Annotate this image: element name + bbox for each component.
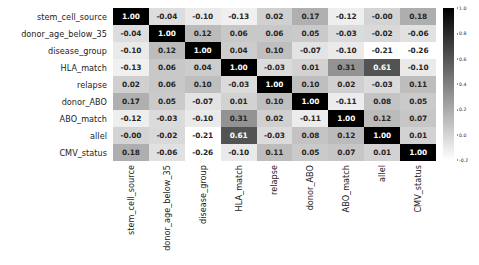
- heatmap-cell: 0.10: [185, 76, 221, 93]
- heatmap-cell: -0.21: [364, 42, 400, 59]
- heatmap-cell: 0.12: [328, 127, 364, 144]
- y-tick-label: CMV_status: [0, 144, 112, 161]
- heatmap-cell: -0.02: [149, 127, 185, 144]
- heatmap-cell: 0.61: [221, 127, 257, 144]
- x-tick-label-slot: disease_group: [185, 161, 221, 265]
- heatmap-cell: -0.11: [328, 93, 364, 110]
- heatmap-cell: 1.00: [292, 93, 328, 110]
- heatmap-cell: 0.01: [400, 127, 436, 144]
- x-tick-label-slot: stem_cell_source: [113, 161, 149, 265]
- x-tick-label: relapse: [269, 165, 279, 195]
- heatmap-cell: 0.05: [292, 25, 328, 42]
- heatmap-cell: 1.00: [364, 127, 400, 144]
- colorbar-tick: -0.2: [454, 158, 468, 163]
- colorbar-tick-text: 0.6: [459, 56, 466, 61]
- heatmap-cell: -0.13: [113, 59, 149, 76]
- x-tick-label: allel: [377, 165, 387, 182]
- heatmap-cell: 0.04: [221, 42, 257, 59]
- colorbar-tick: 0.2: [454, 107, 466, 112]
- heatmap-cell: 0.12: [149, 42, 185, 59]
- heatmap-cell: 0.06: [221, 25, 257, 42]
- heatmap-cell: 0.18: [113, 144, 149, 161]
- tick-mark-icon: [457, 84, 459, 85]
- colorbar-tick: 0.4: [454, 82, 466, 87]
- colorbar-tick-text: 0.8: [459, 31, 466, 36]
- heatmap-cell: 0.06: [257, 25, 293, 42]
- heatmap-cell: 0.17: [292, 8, 328, 25]
- heatmap-cell: 0.08: [292, 127, 328, 144]
- tick-mark-icon: [457, 109, 459, 110]
- y-axis-tick-labels: stem_cell_sourcedonor_age_below_35diseas…: [0, 8, 112, 161]
- colorbar-tick-text: -0.2: [459, 158, 468, 163]
- heatmap-cell: -0.03: [364, 76, 400, 93]
- heatmap-cell: -0.26: [400, 42, 436, 59]
- heatmap-cell: 1.00: [328, 110, 364, 127]
- colorbar: 1.00.80.60.40.20.0-0.2: [443, 8, 454, 160]
- heatmap-cell: 0.31: [221, 110, 257, 127]
- heatmap-cell: 0.02: [257, 8, 293, 25]
- tick-mark-icon: [457, 33, 459, 34]
- heatmap-cell: 0.08: [364, 93, 400, 110]
- y-tick-label: relapse: [0, 76, 112, 93]
- correlation-heatmap-figure: stem_cell_sourcedonor_age_below_35diseas…: [0, 0, 479, 265]
- heatmap-cell: -0.10: [328, 42, 364, 59]
- heatmap-cell: -0.03: [257, 59, 293, 76]
- heatmap-cell: -0.10: [185, 8, 221, 25]
- colorbar-tick: 0.0: [454, 132, 466, 137]
- x-tick-label-slot: donor_age_below_35: [149, 161, 185, 265]
- x-tick-label-slot: HLA_match: [221, 161, 257, 265]
- heatmap-cell: -0.07: [292, 42, 328, 59]
- heatmap-cell: 1.00: [221, 59, 257, 76]
- x-tick-label: CMV_status: [413, 165, 423, 213]
- colorbar-tick: 1.0: [454, 6, 466, 11]
- heatmap-cell: 0.11: [257, 144, 293, 161]
- heatmap-cell: 0.01: [364, 144, 400, 161]
- heatmap-cell: -0.12: [328, 8, 364, 25]
- heatmap-cell: -0.02: [364, 25, 400, 42]
- heatmap-cell: -0.07: [185, 93, 221, 110]
- heatmap-cell: 0.02: [113, 76, 149, 93]
- heatmap-cell: 0.05: [149, 93, 185, 110]
- heatmap-cell: 1.00: [400, 144, 436, 161]
- colorbar-gradient: [443, 8, 454, 160]
- heatmap-cell: -0.04: [149, 8, 185, 25]
- x-tick-label: stem_cell_source: [126, 165, 136, 235]
- x-tick-label-slot: relapse: [257, 161, 293, 265]
- tick-mark-icon: [457, 160, 459, 161]
- heatmap-cell: 0.04: [185, 59, 221, 76]
- heatmap-cell: -0.03: [149, 110, 185, 127]
- x-tick-label-slot: donor_ABO: [292, 161, 328, 265]
- heatmap-cell: -0.00: [364, 8, 400, 25]
- heatmap-cell: 0.02: [257, 110, 293, 127]
- y-tick-label: stem_cell_source: [0, 8, 112, 25]
- heatmap-cell: 1.00: [185, 42, 221, 59]
- heatmap-cell: 1.00: [257, 76, 293, 93]
- x-axis-tick-labels: stem_cell_sourcedonor_age_below_35diseas…: [113, 161, 436, 265]
- heatmap-cell: -0.04: [113, 25, 149, 42]
- heatmap-cell: -0.26: [185, 144, 221, 161]
- y-tick-label: HLA_match: [0, 59, 112, 76]
- heatmap-cell: -0.00: [113, 127, 149, 144]
- heatmap-cell: 0.01: [221, 93, 257, 110]
- colorbar-tick-text: 0.0: [459, 132, 466, 137]
- heatmap-cell: 0.06: [149, 76, 185, 93]
- heatmap-cell: 0.61: [364, 59, 400, 76]
- heatmap-cell: 0.12: [185, 25, 221, 42]
- heatmap-cell: -0.03: [221, 76, 257, 93]
- x-tick-label: donor_age_below_35: [162, 165, 172, 251]
- x-tick-label: donor_ABO: [305, 165, 315, 210]
- x-tick-label: ABO_match: [341, 165, 351, 212]
- heatmap-cell: 0.07: [328, 144, 364, 161]
- y-tick-label: disease_group: [0, 42, 112, 59]
- heatmap-cell: -0.06: [400, 25, 436, 42]
- heatmap-cell: 0.07: [400, 110, 436, 127]
- y-tick-label: ABO_match: [0, 110, 112, 127]
- y-tick-label: donor_age_below_35: [0, 25, 112, 42]
- heatmap-cell: 0.11: [400, 76, 436, 93]
- heatmap-cell: 0.31: [328, 59, 364, 76]
- colorbar-tick: 0.8: [454, 31, 466, 36]
- heatmap-cell: -0.10: [113, 42, 149, 59]
- heatmap-cell: 0.10: [257, 42, 293, 59]
- heatmap-cell: 0.05: [400, 93, 436, 110]
- heatmap-cell: -0.11: [292, 110, 328, 127]
